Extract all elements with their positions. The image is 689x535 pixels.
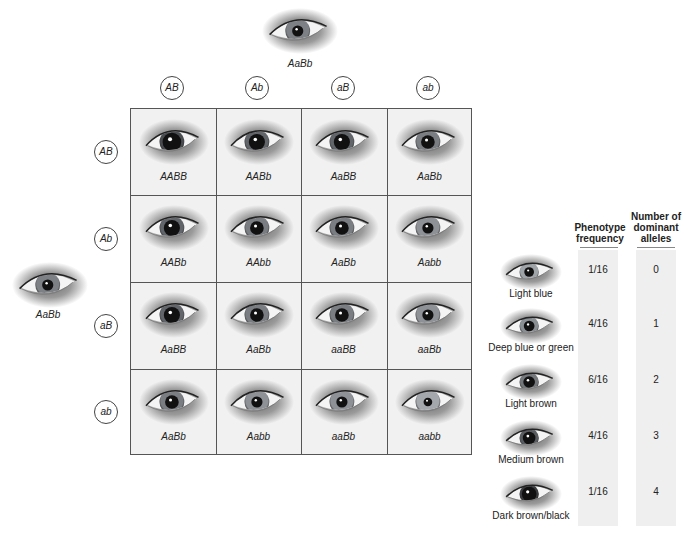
punnett-cell: aaBB xyxy=(301,282,386,368)
eye-icon xyxy=(309,292,379,342)
punnett-cell: AABb xyxy=(131,195,216,281)
genotype-label: AaBb xyxy=(131,431,216,442)
phenotype-label: Light blue xyxy=(480,288,582,299)
frequency-header: Phenotype frequency xyxy=(568,222,632,244)
frequency-column xyxy=(578,250,618,526)
row-gamete-4: ab xyxy=(94,400,118,424)
eye-icon xyxy=(309,119,379,169)
punnett-cell: AABB xyxy=(131,109,216,195)
alleles-header: Number of dominant alleles xyxy=(624,211,688,244)
top-parent-eye xyxy=(262,8,338,58)
punnett-cell: aaBb xyxy=(387,282,472,368)
eye-icon xyxy=(395,292,465,342)
eye-icon xyxy=(139,119,209,169)
genotype-label: aaBb xyxy=(387,344,472,355)
punnett-cell: Aabb xyxy=(216,369,301,455)
left-parent-eye xyxy=(12,262,88,312)
genotype-label: AABb xyxy=(131,257,216,268)
eye-icon xyxy=(139,379,209,429)
genotype-label: AABB xyxy=(131,171,216,182)
genotype-label: aabb xyxy=(387,431,472,442)
frequency-value: 6/16 xyxy=(578,374,618,385)
phenotype-label: Medium brown xyxy=(480,454,582,465)
punnett-cell: AaBb xyxy=(131,369,216,455)
eye-icon xyxy=(395,379,465,429)
eye-icon xyxy=(139,205,209,255)
eye-icon xyxy=(395,119,465,169)
eye-icon xyxy=(224,119,294,169)
dominant-alleles-value: 4 xyxy=(636,486,676,497)
frequency-value: 1/16 xyxy=(578,486,618,497)
row-gamete-3: aB xyxy=(94,314,118,338)
phenotype-label: Deep blue or green xyxy=(480,342,582,353)
dominant-alleles-value: 0 xyxy=(636,264,676,275)
phenotype-label: Dark brown/black xyxy=(480,510,582,521)
eye-icon xyxy=(224,379,294,429)
genotype-label: AaBB xyxy=(301,171,386,182)
dominant-alleles-value: 1 xyxy=(636,318,676,329)
eye-icon xyxy=(224,205,294,255)
alleles-column xyxy=(636,250,676,526)
top-parent-genotype: AaBb xyxy=(270,58,330,69)
header-rule xyxy=(580,247,618,248)
punnett-cell: Aabb xyxy=(387,195,472,281)
eye-icon xyxy=(224,292,294,342)
column-gamete-2: Ab xyxy=(245,76,269,100)
punnett-cell: AaBB xyxy=(301,109,386,195)
punnett-square: AABB AABb xyxy=(130,108,472,455)
row-gamete-1: AB xyxy=(94,140,118,164)
genotype-label: AAbb xyxy=(216,257,301,268)
punnett-cell: AaBb xyxy=(387,109,472,195)
punnett-cell: AaBB xyxy=(131,282,216,368)
column-gamete-4: ab xyxy=(416,76,440,100)
left-parent-genotype: AaBb xyxy=(18,309,78,320)
frequency-value: 4/16 xyxy=(578,318,618,329)
row-gamete-2: Ab xyxy=(94,227,118,251)
genotype-label: Aabb xyxy=(216,431,301,442)
frequency-value: 4/16 xyxy=(578,430,618,441)
phenotype-label: Light brown xyxy=(480,398,582,409)
genotype-label: AaBb xyxy=(301,257,386,268)
frequency-header-line1: Phenotype xyxy=(568,222,632,233)
punnett-cell: aabb xyxy=(387,369,472,455)
punnett-cell: AAbb xyxy=(216,195,301,281)
punnett-cell: AABb xyxy=(216,109,301,195)
frequency-value: 1/16 xyxy=(578,264,618,275)
genotype-label: AaBB xyxy=(131,344,216,355)
column-gamete-3: aB xyxy=(331,76,355,100)
genotype-label: Aabb xyxy=(387,257,472,268)
header-rule xyxy=(637,247,675,248)
dominant-alleles-value: 2 xyxy=(636,374,676,385)
alleles-header-line2: dominant xyxy=(624,222,688,233)
genotype-label: AaBb xyxy=(216,344,301,355)
punnett-cell: AaBb xyxy=(216,282,301,368)
genotype-label: aaBB xyxy=(301,344,386,355)
genotype-label: aaBb xyxy=(301,431,386,442)
punnett-cell: aaBb xyxy=(301,369,386,455)
frequency-header-line2: frequency xyxy=(568,233,632,244)
eye-icon xyxy=(395,205,465,255)
genotype-label: AABb xyxy=(216,171,301,182)
genotype-label: AaBb xyxy=(387,171,472,182)
column-gamete-1: AB xyxy=(160,76,184,100)
alleles-header-line3: alleles xyxy=(624,233,688,244)
eye-icon xyxy=(139,292,209,342)
eye-icon xyxy=(309,379,379,429)
eye-icon xyxy=(309,205,379,255)
punnett-cell: AaBb xyxy=(301,195,386,281)
dominant-alleles-value: 3 xyxy=(636,430,676,441)
alleles-header-line1: Number of xyxy=(624,211,688,222)
